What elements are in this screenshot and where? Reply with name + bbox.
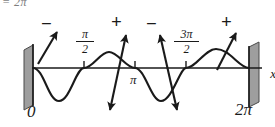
standing-wave-curve xyxy=(33,49,249,101)
tick-label-3pi-over-2: 3π 2 xyxy=(174,28,199,55)
sign-label-2: + xyxy=(111,12,122,31)
sign-label-4: + xyxy=(221,12,232,31)
motion-arrow-2 xyxy=(110,35,126,110)
x-axis-label: x xyxy=(270,66,275,82)
motion-arrow-4 xyxy=(217,33,236,70)
standing-wave-figure: = 2π − + − + xyxy=(0,0,275,127)
sign-label-3: − xyxy=(146,14,157,33)
tick-label-pi-over-2: π 2 xyxy=(76,28,94,55)
sign-label-1: − xyxy=(41,14,52,33)
endpoint-label-right: 2π xyxy=(235,101,252,118)
pi-over-2-numerator: π xyxy=(76,28,94,41)
3pi-over-2-numerator: 3π xyxy=(174,28,199,41)
left-wall-support xyxy=(24,44,33,110)
3pi-over-2-denominator: 2 xyxy=(174,42,199,55)
endpoint-label-left: 0 xyxy=(27,103,36,120)
right-wall-support xyxy=(249,42,259,107)
pi-over-2-denominator: 2 xyxy=(76,42,94,55)
tick-label-pi: π xyxy=(130,73,137,86)
motion-arrow-1 xyxy=(38,32,57,64)
